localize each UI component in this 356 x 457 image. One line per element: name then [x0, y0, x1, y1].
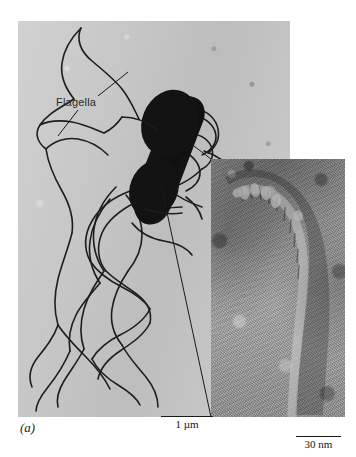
scale-bar-micron-label: 1 µm: [161, 418, 213, 430]
scale-bar-nanometer-rule: [296, 436, 341, 437]
scale-bar-nanometer-label: 30 nm: [296, 438, 341, 450]
inset-micrograph-panel: [211, 159, 345, 417]
flagellar-hook-structure: [211, 159, 345, 417]
annotation-label-flagella: Flagella: [56, 96, 96, 108]
figure-root: Flagella (a) 1 µm 30 nm: [0, 0, 356, 457]
scale-bar-micron-rule: [161, 416, 213, 417]
panel-label: (a): [20, 420, 35, 436]
